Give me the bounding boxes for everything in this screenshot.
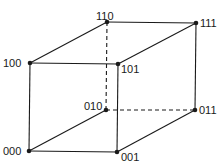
edge-110-111 bbox=[107, 22, 196, 23]
edge-000-010 bbox=[29, 110, 106, 151]
vertex-label-101: 101 bbox=[121, 64, 139, 75]
vertex-label-000: 000 bbox=[3, 146, 21, 157]
cube-graphic bbox=[0, 0, 221, 166]
edge-000-001 bbox=[29, 151, 117, 152]
edge-101-111 bbox=[118, 23, 196, 64]
vertex-dot-000 bbox=[27, 149, 32, 154]
cube-diagram: 000 001 010 011 100 101 110 111 bbox=[0, 0, 221, 166]
vertex-label-011: 011 bbox=[199, 105, 217, 116]
vertex-dot-111 bbox=[194, 21, 199, 26]
vertex-dot-010 bbox=[104, 108, 109, 113]
vertex-dot-101 bbox=[116, 62, 121, 67]
edge-111-011 bbox=[195, 23, 196, 110]
vertex-dot-011 bbox=[193, 108, 198, 113]
edge-000-100 bbox=[29, 63, 30, 151]
vertex-label-010: 010 bbox=[84, 101, 102, 112]
edge-001-011 bbox=[117, 110, 195, 152]
vertex-dot-001 bbox=[115, 150, 120, 155]
edge-100-101 bbox=[30, 63, 118, 64]
vertex-label-111: 111 bbox=[200, 18, 217, 29]
edge-110-010 bbox=[106, 22, 107, 110]
vertex-label-001: 001 bbox=[121, 152, 139, 163]
vertex-dot-100 bbox=[28, 61, 33, 66]
edge-001-101 bbox=[117, 64, 118, 152]
vertex-label-100: 100 bbox=[3, 58, 21, 69]
vertex-label-110: 110 bbox=[96, 11, 114, 22]
edge-100-110 bbox=[30, 22, 107, 63]
